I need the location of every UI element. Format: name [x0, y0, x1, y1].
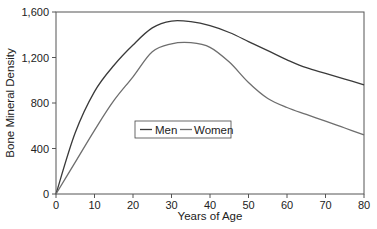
bone-density-chart: 04008001,2001,600 01020304050607080 Bone… [0, 0, 377, 229]
x-tick-label: 0 [53, 199, 59, 211]
x-tick-label: 60 [281, 199, 293, 211]
series-lines [56, 21, 364, 194]
x-tick-label: 80 [358, 199, 370, 211]
y-axis-ticks: 04008001,2001,600 [21, 6, 56, 200]
legend: Men Women [135, 121, 233, 138]
x-tick-label: 10 [88, 199, 100, 211]
y-tick-label: 0 [43, 188, 49, 200]
x-axis-ticks: 01020304050607080 [53, 194, 370, 211]
x-tick-label: 20 [127, 199, 139, 211]
x-tick-label: 50 [242, 199, 254, 211]
y-tick-label: 1,600 [21, 6, 49, 18]
y-tick-label: 400 [31, 143, 49, 155]
legend-men-label: Men [155, 124, 177, 136]
x-tick-label: 30 [165, 199, 177, 211]
y-tick-label: 800 [31, 97, 49, 109]
plot-frame [56, 12, 364, 194]
y-tick-label: 1,200 [21, 52, 49, 64]
legend-women-label: Women [194, 124, 233, 136]
x-axis-label: Years of Age [178, 210, 243, 222]
y-axis-label: Bone Mineral Density [4, 48, 16, 158]
series-line-women [56, 42, 364, 194]
x-tick-label: 70 [319, 199, 331, 211]
